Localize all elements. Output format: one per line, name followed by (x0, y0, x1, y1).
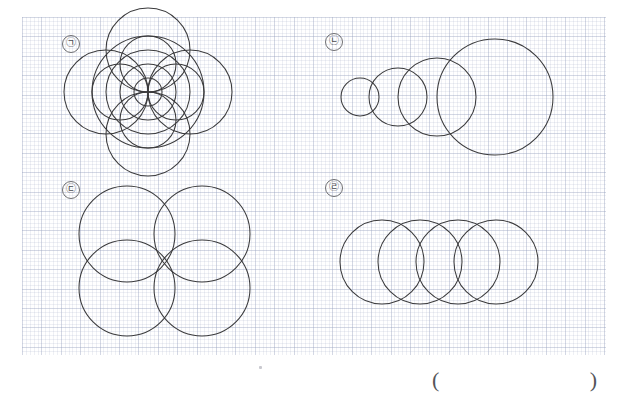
answer-blank-close-paren: ) (590, 366, 597, 394)
answer-blank[interactable]: ( ) (432, 366, 597, 394)
panel-label-a: ㉠ (62, 35, 80, 53)
panel-label-d: ㉣ (325, 179, 343, 197)
panel-label-b: ㉡ (325, 33, 343, 51)
stray-pencil-mark (259, 366, 262, 369)
graph-paper-grid (22, 17, 606, 355)
answer-blank-open-paren: ( (432, 366, 439, 394)
worksheet-page: ㉠ ㉡ ㉢ ㉣ ( ) (0, 0, 621, 405)
panel-label-c: ㉢ (62, 181, 80, 199)
